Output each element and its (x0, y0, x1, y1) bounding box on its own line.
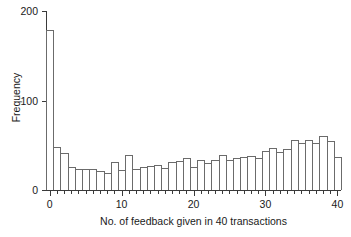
x-tick-minor (301, 191, 302, 194)
x-tick-minor (287, 191, 288, 194)
x-tick-minor (186, 191, 187, 194)
x-tick-minor (309, 191, 310, 194)
x-tick-minor (165, 191, 166, 194)
x-tick-minor (93, 191, 94, 194)
y-tick (42, 190, 46, 191)
x-tick-minor (179, 191, 180, 194)
x-tick-minor (71, 191, 72, 194)
x-tick-minor (136, 191, 137, 194)
x-tick-minor (64, 191, 65, 194)
x-tick-minor (251, 191, 252, 194)
x-tick-minor (158, 191, 159, 194)
x-tick-label: 0 (38, 199, 62, 210)
x-tick-minor (294, 191, 295, 194)
histogram-figure: 0100200 010203040 No. of feedback given … (0, 0, 351, 237)
x-axis-title: No. of feedback given in 40 transactions (46, 216, 341, 227)
x-tick-minor (229, 191, 230, 194)
x-tick-minor (237, 191, 238, 194)
x-tick-major (337, 191, 338, 196)
x-tick-major (265, 191, 266, 196)
x-tick-label: 10 (110, 199, 134, 210)
x-tick-major (194, 191, 195, 196)
x-tick-minor (172, 191, 173, 194)
x-tick-minor (100, 191, 101, 194)
histogram-bars (46, 11, 341, 190)
x-tick-minor (280, 191, 281, 194)
x-tick-minor (114, 191, 115, 194)
x-tick-minor (143, 191, 144, 194)
x-tick-minor (330, 191, 331, 194)
x-tick-major (122, 191, 123, 196)
x-tick-minor (258, 191, 259, 194)
x-tick-minor (150, 191, 151, 194)
histogram-bar (334, 157, 342, 190)
x-tick-minor (222, 191, 223, 194)
x-tick-minor (316, 191, 317, 194)
y-tick-label: 0 (4, 185, 38, 196)
x-tick-label: 20 (182, 199, 206, 210)
x-tick-label: 30 (253, 199, 277, 210)
x-tick-minor (244, 191, 245, 194)
x-tick-major (50, 191, 51, 196)
x-tick-label: 40 (325, 199, 349, 210)
x-tick-minor (215, 191, 216, 194)
x-tick-minor (208, 191, 209, 194)
x-tick-minor (201, 191, 202, 194)
x-tick-minor (129, 191, 130, 194)
x-tick-minor (323, 191, 324, 194)
y-axis-title: Frequency (11, 53, 22, 143)
x-tick-minor (78, 191, 79, 194)
x-tick-minor (273, 191, 274, 194)
x-tick-minor (57, 191, 58, 194)
x-tick-minor (107, 191, 108, 194)
x-tick-minor (86, 191, 87, 194)
y-tick-label: 200 (4, 6, 38, 17)
